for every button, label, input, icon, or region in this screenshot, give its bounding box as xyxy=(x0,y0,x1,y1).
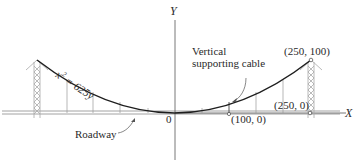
point-250-100-marker xyxy=(309,58,313,62)
point-250-100-label: (250, 100) xyxy=(284,45,330,57)
vertical-cable-label-line1: Vertical xyxy=(192,45,226,57)
point-250-0-label: (250, 0) xyxy=(274,99,309,111)
left-tower xyxy=(26,60,48,118)
roadway-arrowhead-icon xyxy=(131,118,135,122)
y-axis-label: Y xyxy=(170,5,177,17)
vertical-cable-leader xyxy=(234,78,246,101)
suspension-bridge-diagram: Y X 0 x2 = 625y Vertical supporting cabl… xyxy=(0,0,357,165)
origin-label: 0 xyxy=(166,113,172,125)
x-axis-label: X xyxy=(345,107,352,119)
point-100-0-label: (100, 0) xyxy=(231,113,266,125)
point-250-0-marker xyxy=(308,111,312,115)
vertical-cable-label-line2: supporting cable xyxy=(192,57,265,69)
roadway-label: Roadway xyxy=(75,128,117,140)
diagram-canvas xyxy=(0,0,357,165)
